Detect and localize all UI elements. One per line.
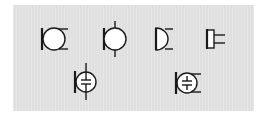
microphone-vertical-leads-symbol-icon: Microphone (vertical leads) (98, 19, 128, 59)
condenser-microphone-vertical-leads-symbol-icon: Condenser microphone (vertical leads) (70, 62, 100, 102)
microphone-symbol-icon: Microphone (38, 25, 72, 55)
condenser-microphone-symbol-icon: Condenser microphone (173, 68, 207, 98)
microphone-rectangular-symbol-icon: Microphone (rectangular) (204, 28, 232, 52)
symbol-panel (13, 5, 254, 111)
microphone-half-round-symbol-icon: Microphone (half-round) (152, 25, 182, 55)
